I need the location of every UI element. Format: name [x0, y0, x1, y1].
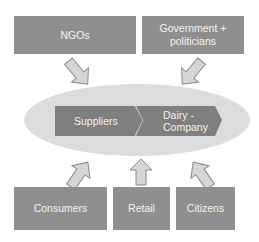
retail-box: Retail	[113, 187, 170, 230]
consumers-label: Consumers	[34, 202, 88, 215]
suppliers-label: Suppliers	[74, 115, 118, 127]
citizens-label: Citizens	[187, 202, 224, 215]
retail-label: Retail	[128, 202, 155, 215]
citizens-box: Citizens	[176, 187, 235, 230]
arrow-up-icon	[130, 159, 152, 185]
consumers-box: Consumers	[14, 187, 107, 230]
arrow-down-left-icon	[174, 54, 210, 91]
arrow-down-right-icon	[60, 54, 96, 91]
dairy-company-label: Dairy - Company	[163, 109, 208, 133]
